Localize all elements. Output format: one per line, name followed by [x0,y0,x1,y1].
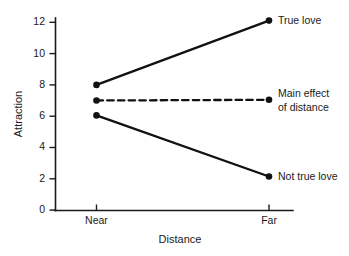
data-point-not-true-love-far [266,173,273,180]
data-point-main-effect-near [93,97,100,104]
interaction-line-chart: 12 10 8 6 4 2 0 Near Far Distance Attrac… [0,0,349,256]
data-point-main-effect-far [266,97,273,104]
y-tick-label-12: 12 [33,15,45,27]
x-tick-label-far: Far [261,214,277,226]
series-label-true-love: True love [278,14,322,26]
y-tick-label-0: 0 [39,203,45,215]
series-label-main-effect-line1: Main effect [278,87,329,99]
y-tick-label-2: 2 [39,172,45,184]
y-tick-label-8: 8 [39,78,45,90]
series-main-effect-of-distance: Main effect of distance [93,87,329,113]
data-point-not-true-love-near [93,112,100,119]
x-axis-title: Distance [159,233,202,245]
y-tick-labels: 12 10 8 6 4 2 0 [33,15,45,215]
x-tick-group [97,205,270,211]
series-label-not-true-love: Not true love [278,170,338,182]
series-label-main-effect-line2: of distance [278,101,329,113]
series-true-love-line [97,21,270,85]
axes-group [55,18,293,211]
data-point-true-love-near [93,82,100,89]
y-tick-label-6: 6 [39,109,45,121]
x-tick-label-near: Near [85,214,108,226]
y-tick-label-10: 10 [33,47,45,59]
series-true-love: True love [93,14,321,88]
x-tick-labels: Near Far [85,214,277,226]
series-not-true-love: Not true love [93,112,337,182]
y-tick-group [50,22,56,210]
y-tick-label-4: 4 [39,140,45,152]
chart-canvas: 12 10 8 6 4 2 0 Near Far Distance Attrac… [0,0,349,256]
series-not-true-love-line [97,115,270,176]
data-point-true-love-far [266,17,273,24]
y-axis-title: Attraction [12,91,24,137]
series-main-effect-line [97,100,270,101]
